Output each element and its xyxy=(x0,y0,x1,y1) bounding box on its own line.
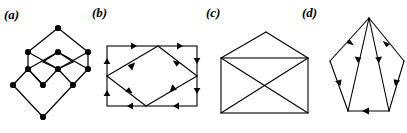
arrowhead-icon xyxy=(362,108,369,115)
panel-b-graph xyxy=(101,28,205,113)
graph-node xyxy=(70,82,76,88)
arrowhead-icon xyxy=(170,84,177,92)
panel-d-edges xyxy=(330,18,404,111)
graph-node xyxy=(55,49,61,55)
arrowhead-icon xyxy=(104,58,111,64)
graph-node xyxy=(55,66,61,72)
arrowhead-icon xyxy=(127,103,133,110)
graph-node xyxy=(25,49,31,55)
panel-a-graph xyxy=(6,22,101,128)
arrowhead-icon xyxy=(173,103,179,110)
graph-node xyxy=(40,114,46,120)
graph-node xyxy=(55,25,61,31)
arrowhead-icon xyxy=(194,58,201,64)
panel-b-label: (b) xyxy=(92,6,107,19)
panel-c-label: (c) xyxy=(206,6,220,19)
panel-b: (b) xyxy=(88,0,198,133)
panel-a-edges xyxy=(13,28,88,117)
arrowhead-icon xyxy=(131,43,137,50)
graph-node xyxy=(10,82,16,88)
panel-a: (a) xyxy=(0,0,95,133)
graph-node xyxy=(25,66,31,72)
arrowhead-icon xyxy=(375,57,382,63)
figure-root: (a) xyxy=(0,0,407,133)
arrowhead-icon xyxy=(347,39,355,45)
panel-d: (d) xyxy=(300,0,407,133)
panel-a-nodes xyxy=(10,25,91,120)
arrowhead-icon xyxy=(173,61,181,67)
panel-b-edges xyxy=(107,46,197,106)
panel-d-graph xyxy=(324,14,407,126)
graph-node xyxy=(40,82,46,88)
panel-b-arrowheads xyxy=(104,43,201,110)
arrowhead-icon xyxy=(194,88,201,94)
panel-d-label: (d) xyxy=(302,6,317,19)
arrowhead-icon xyxy=(104,90,111,96)
arrowhead-icon xyxy=(177,43,183,50)
panel-c-edges xyxy=(221,32,308,113)
panel-c: (c) xyxy=(202,0,307,133)
panel-a-label: (a) xyxy=(4,8,19,21)
